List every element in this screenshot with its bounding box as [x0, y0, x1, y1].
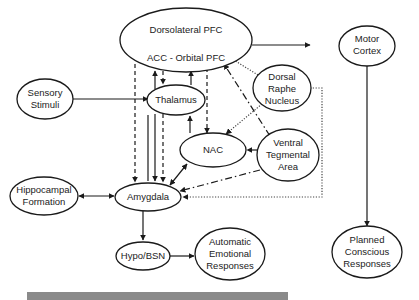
node-hypo-bsn: Hypo/BSN	[116, 242, 170, 270]
label-ventral: Ventral	[273, 137, 303, 148]
label-amygdala: Amygdala	[127, 191, 170, 202]
label-cortex: Cortex	[353, 45, 381, 56]
label-responses: Responses	[206, 260, 254, 271]
edge-amygdala-nac	[170, 164, 187, 185]
label-formation: Formation	[23, 196, 66, 207]
edge-vta-amygdala	[180, 170, 260, 191]
label-responses-2: Responses	[343, 258, 391, 269]
label-stimuli: Stimuli	[31, 99, 60, 110]
label-emotional: Emotional	[209, 248, 251, 259]
label-sensory: Sensory	[28, 87, 63, 98]
label-dorsal: Dorsal	[268, 71, 295, 82]
node-planned-conscious-responses: Planned Conscious Responses	[332, 226, 402, 278]
gray-footer-bar	[27, 292, 288, 300]
label-hippocampal: Hippocampal	[16, 184, 71, 195]
label-nac: NAC	[203, 144, 223, 155]
label-nucleus: Nucleus	[265, 95, 300, 106]
label-conscious: Conscious	[345, 246, 390, 257]
node-amygdala: Amygdala	[115, 183, 181, 211]
label-automatic: Automatic	[209, 236, 251, 247]
node-pfc: Dorsolateral PFC ACC - Orbital PFC	[120, 8, 252, 72]
label-acc-orbital-pfc: ACC - Orbital PFC	[147, 52, 225, 63]
label-raphe: Raphe	[268, 83, 296, 94]
node-motor-cortex: Motor Cortex	[339, 26, 395, 66]
label-area: Area	[278, 161, 299, 172]
node-thalamus: Thalamus	[147, 85, 205, 115]
label-thalamus: Thalamus	[155, 94, 197, 105]
node-ventral-tegmental-area: Ventral Tegmental Area	[257, 129, 319, 181]
node-automatic-emotional-responses: Automatic Emotional Responses	[195, 228, 265, 280]
node-hippocampal-formation: Hippocampal Formation	[10, 177, 78, 215]
label-planned: Planned	[350, 234, 385, 245]
label-tegmental: Tegmental	[266, 149, 310, 160]
brain-pathway-diagram: Dorsolateral PFC ACC - Orbital PFC Motor…	[0, 0, 419, 300]
label-hypo-bsn: Hypo/BSN	[121, 250, 165, 261]
label-dorsolateral-pfc: Dorsolateral PFC	[150, 24, 223, 35]
edge-raphe-nac	[226, 104, 262, 134]
node-sensory-stimuli: Sensory Stimuli	[17, 79, 73, 119]
label-motor: Motor	[355, 33, 379, 44]
node-nac: NAC	[180, 133, 246, 167]
node-dorsal-raphe: Dorsal Raphe Nucleus	[253, 65, 311, 111]
